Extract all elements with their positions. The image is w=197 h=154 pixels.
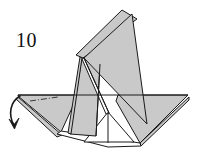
origami-step-figure: 10 [0,0,197,154]
origami-illustration [0,0,197,154]
step-number-label: 10 [16,30,37,50]
